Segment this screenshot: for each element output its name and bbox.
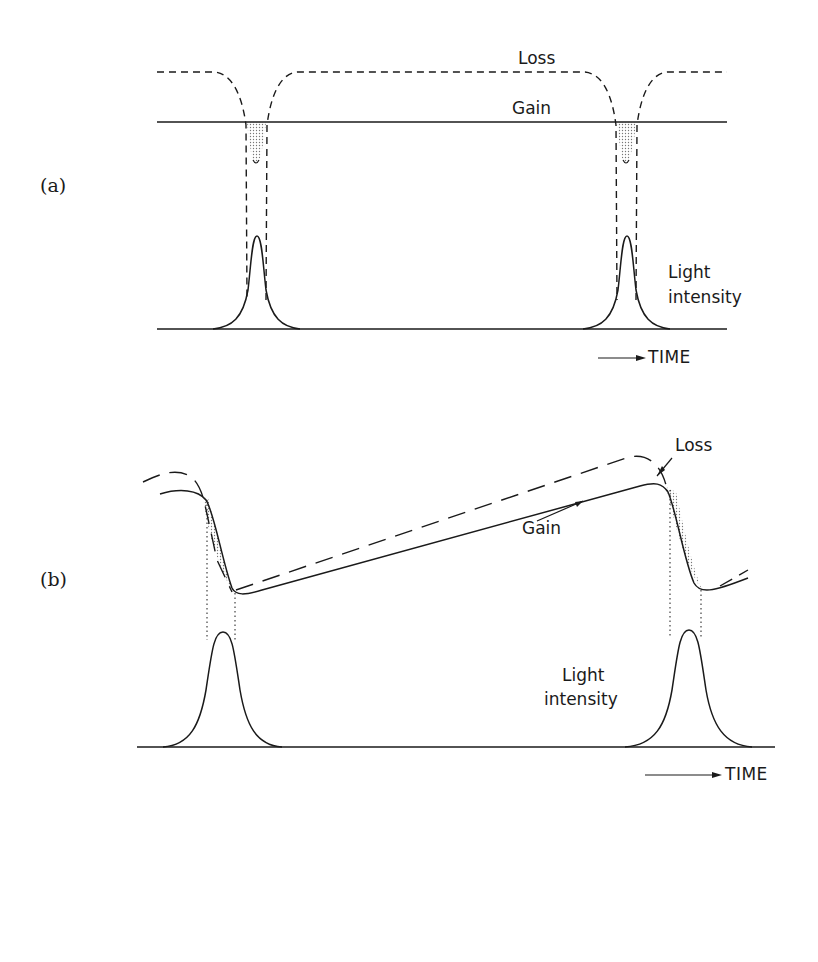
intensity-label-b-line2: intensity [544, 691, 618, 708]
time-axis-label-b: TIME [725, 766, 768, 783]
intensity-label-a-line1: Light [668, 264, 710, 281]
panel-a-drawing [157, 72, 727, 361]
pulse-a1 [213, 236, 300, 329]
pulse-a2 [583, 236, 670, 329]
gain-curve-b [160, 484, 748, 594]
gain-label-a: Gain [512, 100, 551, 117]
panel-label-b: (b) [40, 570, 67, 589]
time-axis-label-a: TIME [648, 349, 691, 366]
loss-curve-b [143, 456, 666, 592]
panel-b-drawing [137, 456, 775, 778]
diagram-drawing [0, 0, 818, 962]
panel-label-a: (a) [40, 176, 66, 195]
loss-label-b: Loss [675, 437, 712, 454]
net-gain-window-a2 [617, 122, 636, 163]
net-gain-window-a1 [247, 122, 266, 163]
gain-label-b: Gain [522, 520, 561, 537]
pulse-b2 [625, 630, 752, 747]
mode-locking-diagram: (a) Loss Gain Light intensity TIME (b) L… [0, 0, 818, 962]
loss-curve-a [157, 72, 727, 300]
intensity-label-a-line2: intensity [668, 289, 742, 306]
loss-label-a: Loss [518, 50, 555, 67]
pulse-b1 [163, 632, 282, 747]
intensity-label-b-line1: Light [562, 667, 604, 684]
